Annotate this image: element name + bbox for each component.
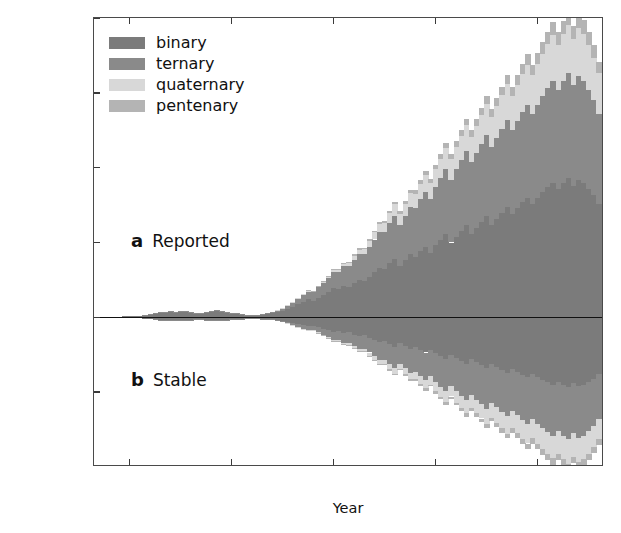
- legend: binaryternaryquaternarypentenary: [109, 32, 245, 116]
- bar-segment-quaternary: [596, 419, 602, 439]
- legend-swatch-ternary: [109, 58, 145, 70]
- x-axis-label: Year: [93, 500, 603, 516]
- zero-line: [94, 317, 602, 319]
- legend-label: pentenary: [156, 98, 238, 114]
- x-tick-label: 1920: [110, 465, 149, 466]
- legend-item-pentenary[interactable]: pentenary: [109, 95, 245, 116]
- y-axis-label-wrapper: # of Structures Discovered in Year: [8, 0, 30, 466]
- x-tick-label: 1940: [212, 465, 251, 466]
- bar-segment-ternary: [596, 374, 602, 419]
- bar-segment-pentenary: [596, 439, 602, 445]
- panel-title-b: Stable: [153, 370, 207, 390]
- x-tick-mark-top: [537, 18, 538, 24]
- legend-label: ternary: [156, 56, 214, 72]
- legend-item-ternary[interactable]: ternary: [109, 53, 245, 74]
- x-tick-mark-top: [129, 18, 130, 24]
- plot-area: 2000.01500.01000.0500.00.0500.01000.0 19…: [93, 17, 603, 466]
- x-tick-mark-top: [231, 18, 232, 24]
- x-tick-mark-top: [333, 18, 334, 24]
- y-tick-mark: [94, 317, 100, 318]
- y-tick-mark: [94, 17, 100, 18]
- x-tick-mark: [435, 459, 436, 465]
- y-tick-label: 1000.0: [93, 458, 94, 466]
- y-tick-mark: [94, 242, 100, 243]
- panel-title-a: Reported: [152, 231, 230, 251]
- y-tick-mark: [94, 167, 100, 168]
- legend-label: quaternary: [156, 77, 245, 93]
- x-tick-label: 1960: [314, 465, 353, 466]
- x-tick-label: 2000: [518, 465, 557, 466]
- figure: # of Structures Discovered in Year 2000.…: [0, 0, 621, 533]
- legend-swatch-binary: [109, 37, 145, 49]
- bar-stable: [596, 18, 602, 466]
- bar-segment-binary: [596, 317, 602, 374]
- legend-swatch-quaternary: [109, 79, 145, 91]
- legend-item-quaternary[interactable]: quaternary: [109, 74, 245, 95]
- x-tick-label: 1980: [416, 465, 455, 466]
- panel-label-reported: aReported: [131, 230, 230, 251]
- panel-letter-b: b: [131, 369, 144, 390]
- legend-item-binary[interactable]: binary: [109, 32, 245, 53]
- y-tick-mark: [94, 92, 100, 93]
- x-tick-mark: [129, 459, 130, 465]
- x-tick-mark-top: [435, 18, 436, 24]
- x-tick-mark: [231, 459, 232, 465]
- panel-letter-a: a: [131, 230, 143, 251]
- x-tick-mark: [333, 459, 334, 465]
- legend-swatch-pentenary: [109, 100, 145, 112]
- y-tick-mark: [94, 391, 100, 392]
- legend-label: binary: [156, 35, 207, 51]
- x-tick-mark: [537, 459, 538, 465]
- panel-label-stable: bStable: [131, 369, 207, 390]
